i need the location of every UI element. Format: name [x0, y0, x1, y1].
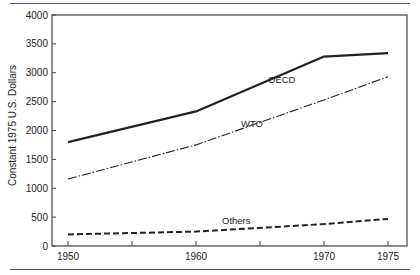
y-tick-label: 0	[42, 241, 48, 252]
series-line-wto	[68, 77, 388, 179]
y-tick-label: 2000	[26, 125, 49, 136]
plot-frame	[52, 15, 407, 246]
y-axis-label: Constant 1975 U.S. Dollars	[7, 56, 18, 196]
x-tick-label: 1960	[185, 251, 208, 262]
series-label-others: Others	[222, 215, 251, 226]
y-tick-label: 1500	[26, 154, 49, 165]
y-tick-label: 3000	[26, 67, 49, 78]
x-tick-label: 1970	[313, 251, 336, 262]
series-label-wto: WTO	[241, 118, 263, 129]
x-tick-label: 1975	[377, 251, 400, 262]
x-tick-label: 1950	[57, 251, 80, 262]
y-tick-label: 1000	[26, 183, 49, 194]
y-tick-label: 2500	[26, 96, 49, 107]
line-chart: 0500100015002000250030003500400019501960…	[0, 0, 420, 275]
bottom-rule	[10, 269, 410, 270]
series-label-oecd: OECD	[268, 74, 296, 85]
y-tick-label: 500	[31, 212, 48, 223]
series-line-oecd	[68, 53, 388, 142]
y-tick-label: 3500	[26, 38, 49, 49]
y-tick-label: 4000	[26, 10, 49, 21]
